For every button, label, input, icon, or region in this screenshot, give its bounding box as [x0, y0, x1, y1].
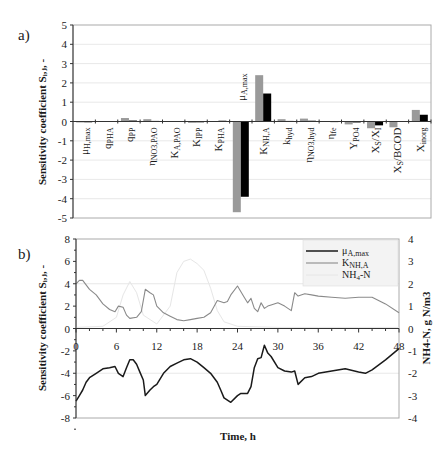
y2-tick-label: -2 [408, 367, 417, 379]
y2-tick-label: -4 [408, 412, 418, 424]
panel-label-b: b) [18, 246, 31, 263]
y-tick-label: 0 [62, 116, 68, 128]
y2-tick-label: -1 [408, 345, 417, 357]
bar-gray [367, 122, 375, 129]
y-tick-label: 2 [65, 300, 71, 312]
category-label: μA,max [235, 74, 249, 101]
category-label: ηNO3,hyd [302, 128, 316, 163]
category-label: μH,max [78, 128, 92, 155]
bar-gray [412, 110, 420, 122]
figure: a) 543210-1-2-3-4-5 μH,maxqPHAqPPηNO3,PA… [0, 0, 448, 452]
y-tick-label: 1 [62, 96, 68, 108]
bar-gray [389, 122, 397, 128]
y-tick-label: 3 [62, 58, 68, 70]
category-label: KIPP [190, 127, 204, 147]
y-tick-label: -1 [58, 135, 67, 147]
y2-axis-label: NH4-N, g N/m3 [420, 291, 432, 365]
x-tick-label: 18 [192, 340, 204, 352]
y-tick-label: 6 [65, 255, 71, 267]
bar-black [420, 115, 428, 122]
category-label: XS/XI [369, 127, 383, 153]
y-tick-label: 0 [65, 323, 71, 335]
y-tick-label: -4 [58, 193, 68, 205]
category-label: YPO4 [347, 128, 361, 150]
x-tick-label: 48 [394, 340, 406, 352]
y-tick-label: 8 [65, 233, 71, 245]
x-tick-label: 24 [232, 340, 244, 352]
x-tick-label: 36 [313, 340, 325, 352]
bar-gray [255, 75, 263, 121]
y-tick-label: -4 [61, 367, 71, 379]
y-tick-label: 2 [62, 77, 68, 89]
y2-tick-label: 0 [408, 323, 414, 335]
legend: μA,maxKNH,ANH4-N [303, 240, 398, 286]
x-tick-label: 12 [151, 340, 162, 352]
panel-label-a: a) [18, 27, 30, 44]
category-label: qPP [123, 127, 137, 142]
y-tick-label: -6 [61, 390, 71, 402]
y-axis-label: Sensitivity coefficient Sᵢ,ⱼ, - [36, 265, 48, 391]
x-tick-label: 0 [73, 340, 79, 352]
y2-tick-label: 4 [408, 233, 414, 245]
y-tick-label: -8 [61, 412, 71, 424]
line-mu-a-max [76, 345, 399, 402]
x-axis-label: Time, h [220, 430, 256, 442]
line-k-nh-a [76, 280, 399, 320]
x-tick-label: 30 [272, 340, 284, 352]
panel-a-bar-chart: a) 543210-1-2-3-4-5 μH,maxqPHAqPPηNO3,PA… [18, 19, 431, 224]
bar-gray [233, 122, 241, 213]
category-label: qPHA [101, 127, 115, 149]
y-tick-label: -5 [58, 212, 68, 224]
category-label: Xinorg [414, 128, 428, 153]
y-tick-label: -2 [61, 345, 70, 357]
category-label: ηfe [324, 127, 338, 139]
category-label: XS/BCOD [391, 127, 405, 173]
y2-tick-label: -3 [408, 390, 418, 402]
y-tick-label: -3 [58, 173, 68, 185]
bar-black [241, 122, 249, 197]
category-label: KA,PAO [168, 127, 182, 158]
y-axis-label: Sensitivity coefficient Sᵢ,ⱼ, - [36, 59, 48, 185]
y2-tick-label: 1 [408, 300, 414, 312]
y2-tick-label: 3 [408, 255, 414, 267]
panel-b-line-chart: b) 86420-2-4-6-843210-1-2-3-406121824303… [18, 233, 432, 442]
y-tick-label: -2 [58, 154, 67, 166]
category-label: KPHA [212, 127, 226, 151]
y-tick-label: 5 [62, 19, 68, 31]
y2-tick-label: 2 [408, 278, 414, 290]
category-label: khyd [280, 128, 294, 146]
y-tick-label: 4 [62, 38, 68, 50]
x-tick-label: 6 [114, 340, 120, 352]
x-tick-label: 42 [353, 340, 364, 352]
bar-black [263, 94, 271, 122]
y-tick-label: 4 [65, 278, 71, 290]
